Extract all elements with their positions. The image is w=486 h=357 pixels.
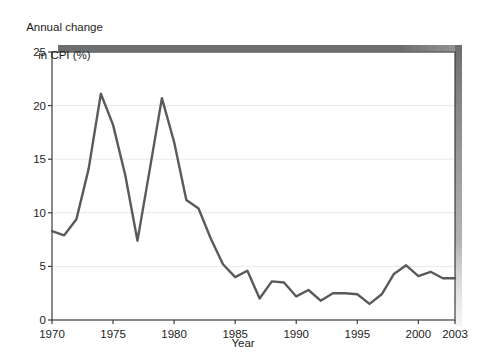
x-tick-label: 1985: [222, 328, 248, 340]
x-tick-label: 1970: [39, 328, 65, 340]
axis-ticks: [48, 52, 455, 324]
plot-frame: [52, 52, 455, 320]
x-tick-label: 2003: [442, 328, 468, 340]
chart-figure: Annual change in CPI (%) Year 0510152025: [0, 0, 486, 357]
x-tick-label: 1990: [283, 328, 309, 340]
data-line-series: [52, 94, 455, 304]
gridlines: [52, 52, 455, 266]
y-tick-label: 25: [20, 46, 46, 58]
x-tick-label: 2000: [406, 328, 432, 340]
y-tick-label: 10: [20, 207, 46, 219]
y-tick-label: 15: [20, 153, 46, 165]
cpi-line: [52, 94, 455, 304]
y-tick-label: 20: [20, 100, 46, 112]
x-tick-label: 1975: [100, 328, 126, 340]
plot-shadow: [58, 45, 462, 326]
y-tick-label: 5: [20, 260, 46, 272]
y-tick-label: 0: [20, 314, 46, 326]
y-axis-title-line1: Annual change: [26, 21, 103, 33]
x-tick-label: 1980: [161, 328, 187, 340]
plot-border: [52, 52, 455, 320]
x-tick-label: 1995: [345, 328, 371, 340]
